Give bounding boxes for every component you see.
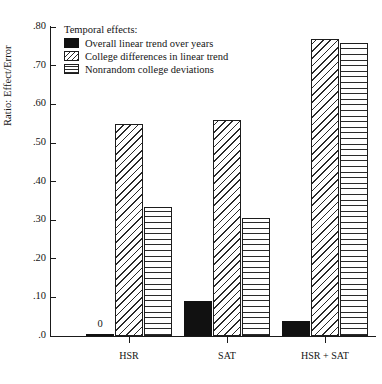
legend-item-label: Overall linear trend over years <box>85 38 213 49</box>
y-axis-tick <box>50 143 56 144</box>
bar <box>115 124 143 336</box>
x-axis-category-label: SAT <box>177 350 277 361</box>
y-axis-tick-label: .60 <box>6 98 46 108</box>
x-axis-tick <box>325 337 326 343</box>
y-axis-tick-label: .30 <box>6 214 46 224</box>
legend-item-label: Nonrandom college deviations <box>85 64 214 75</box>
bar <box>242 218 270 336</box>
y-axis-tick <box>50 181 56 182</box>
bar <box>213 120 241 336</box>
y-axis-tick <box>50 297 56 298</box>
y-axis-tick-label: .70 <box>6 60 46 70</box>
y-axis-tick <box>50 104 56 105</box>
legend-swatch-grid-icon <box>64 64 79 74</box>
bar <box>340 43 368 336</box>
bar <box>282 321 310 336</box>
legend-item-nonrandom-deviations: Nonrandom college deviations <box>64 63 228 75</box>
y-axis-tick-label: .50 <box>6 137 46 147</box>
y-axis-tick-label: .80 <box>6 21 46 31</box>
bar <box>86 334 114 336</box>
chart-legend: Temporal effects: Overall linear trend o… <box>64 24 228 76</box>
y-axis-tick-label: .20 <box>6 253 46 263</box>
x-axis-category-label: HSR <box>79 350 179 361</box>
y-axis-tick <box>50 258 56 259</box>
legend-swatch-solid-icon <box>64 38 79 48</box>
y-axis-tick <box>50 65 56 66</box>
y-axis-tick <box>50 27 56 28</box>
bar-chart: Ratio: Effect/Error .0.10.20.30.40.50.60… <box>0 0 382 384</box>
x-axis-category-label: HSR + SAT <box>275 350 375 361</box>
bar <box>184 301 212 336</box>
x-axis-tick <box>227 337 228 343</box>
legend-item-college-differences: College differences in linear trend <box>64 50 228 62</box>
legend-item-overall-linear-trend: Overall linear trend over years <box>64 37 228 49</box>
bar <box>311 39 339 336</box>
x-axis-line <box>50 336 376 337</box>
legend-title: Temporal effects: <box>64 24 228 35</box>
legend-item-label: College differences in linear trend <box>85 51 228 62</box>
y-axis-tick-label: .40 <box>6 176 46 186</box>
y-axis-tick <box>50 220 56 221</box>
y-axis-tick-label: .10 <box>6 291 46 301</box>
legend-swatch-hatch-icon <box>64 51 79 61</box>
y-axis-tick-label: .0 <box>6 330 46 340</box>
x-axis-tick <box>129 337 130 343</box>
bar <box>144 207 172 336</box>
